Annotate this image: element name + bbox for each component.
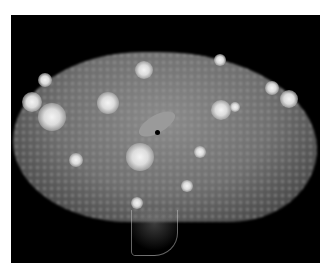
bright-nodule (211, 100, 231, 120)
bright-nodule (126, 143, 154, 171)
bright-nodule (194, 146, 206, 158)
vessel-lumen (155, 130, 160, 135)
tissue-texture (13, 52, 317, 222)
bright-nodule (265, 81, 279, 95)
bright-nodule (69, 153, 83, 167)
bright-nodule (280, 90, 298, 108)
bright-nodule (38, 73, 52, 87)
bright-nodule (131, 197, 143, 209)
tissue-lobe-tail (131, 210, 178, 256)
micrograph-frame (11, 15, 320, 263)
bright-nodule (181, 180, 193, 192)
bright-nodule (214, 54, 226, 66)
bright-nodule (230, 102, 240, 112)
bright-nodule (38, 103, 66, 131)
tissue-section (13, 52, 317, 222)
bright-nodule (135, 61, 153, 79)
bright-nodule (97, 92, 119, 114)
